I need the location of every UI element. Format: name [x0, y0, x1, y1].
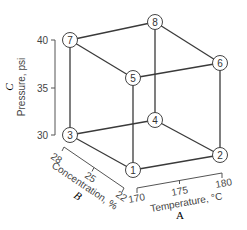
cube-edges: [70, 22, 220, 170]
concentration-axis: 28 25 22 Concentration, % B: [49, 147, 130, 212]
svg-text:5: 5: [130, 73, 136, 84]
pressure-tick-30: 30: [37, 130, 49, 141]
concentration-axis-label: Concentration, %: [50, 160, 120, 212]
edge-7-8: [70, 22, 155, 40]
node-4: 4: [148, 113, 163, 128]
node-7: 7: [63, 33, 78, 48]
edge-6-5: [133, 63, 220, 78]
node-5: 5: [126, 71, 141, 86]
node-1: 1: [126, 163, 141, 178]
svg-text:3: 3: [67, 130, 73, 141]
svg-text:6: 6: [217, 58, 223, 69]
svg-text:7: 7: [67, 35, 73, 46]
pressure-axis-label: Pressure, psi: [16, 58, 27, 116]
temperature-axis: 170 175 180 Temperature, °C A: [127, 173, 233, 221]
node-8: 8: [148, 15, 163, 30]
temperature-tick-170: 170: [127, 191, 146, 205]
temperature-tick-180: 180: [214, 176, 233, 190]
node-2: 2: [213, 148, 228, 163]
cube-diagram: 7 8 5 6 3 4 1 2 40 35 30 Pressure, psi C…: [0, 0, 247, 230]
edge-2-1: [133, 155, 220, 170]
pressure-tick-35: 35: [37, 83, 49, 94]
edge-8-6: [155, 22, 220, 63]
pressure-factor-label: C: [3, 83, 15, 91]
svg-text:1: 1: [130, 165, 136, 176]
pressure-tick-40: 40: [37, 35, 49, 46]
edge-3-4: [70, 120, 155, 135]
node-3: 3: [63, 128, 78, 143]
svg-text:2: 2: [217, 150, 223, 161]
pressure-axis: 40 35 30 Pressure, psi C: [3, 35, 55, 141]
node-6: 6: [213, 56, 228, 71]
edge-4-2: [155, 120, 220, 155]
svg-text:8: 8: [152, 17, 158, 28]
temperature-factor-label: A: [176, 209, 184, 221]
edge-1-3: [70, 135, 133, 170]
svg-text:4: 4: [152, 115, 158, 126]
edge-5-7: [70, 40, 133, 78]
concentration-factor-label: B: [72, 189, 85, 203]
